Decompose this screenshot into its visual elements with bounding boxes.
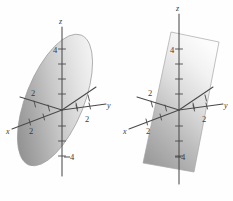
right-tick-y: 2 [202,114,206,124]
left-tick-x: 2 [29,126,33,136]
left-z-axis-label: z [58,17,63,26]
right-y-axis-label: y [223,101,228,110]
left-tick-z-negative: 4 [70,152,75,162]
left-tick-y: 2 [85,114,89,124]
right-tick-upper-left: 2 [148,88,152,98]
left-plot-panel: z y x 4 4 2 2 2 [0,0,116,201]
right-plot-panel: z y x 4 4 2 2 2 [116,0,233,201]
right-z-axis-label: z [175,4,180,13]
left-tick-z-negative-group: 4 [64,152,75,162]
left-tick-upper-left: 2 [31,88,35,98]
figure-container: z y x 4 4 2 2 2 [0,0,233,201]
right-tick-x: 2 [146,126,150,136]
left-x-axis-label: x [5,127,10,136]
left-y-axis-label: y [106,101,111,110]
right-x-axis-label: x [122,127,127,136]
